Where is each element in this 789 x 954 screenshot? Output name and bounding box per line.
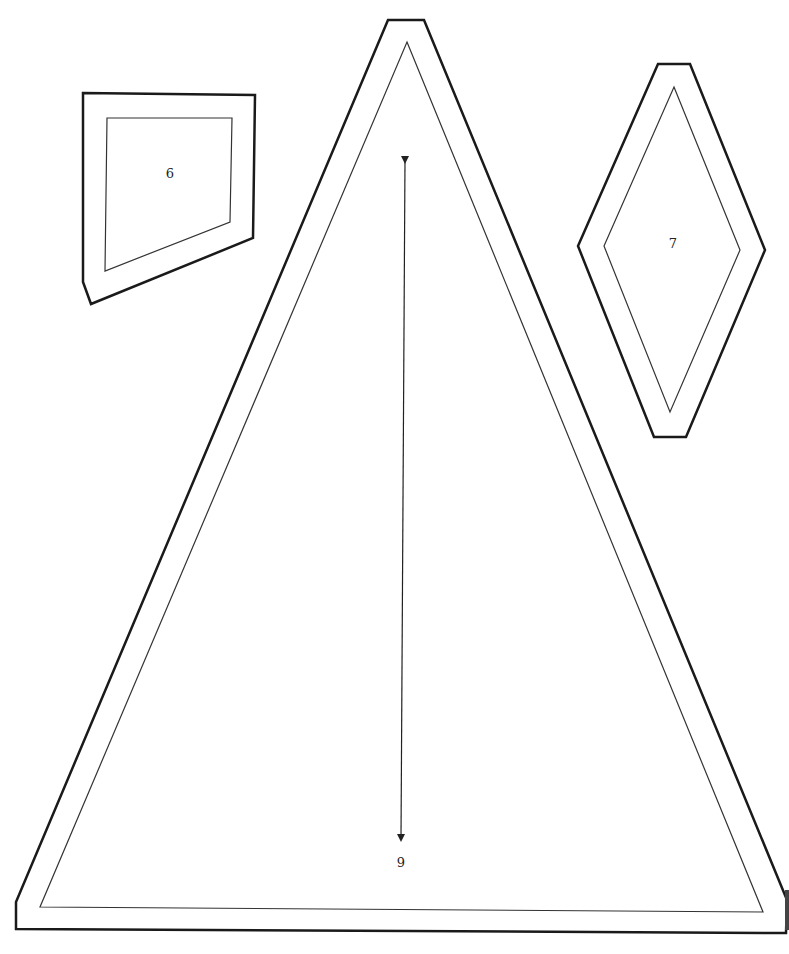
piece-7: 7: [578, 64, 765, 437]
piece-7-number: 7: [669, 236, 677, 251]
piece-6: 6: [83, 93, 255, 304]
piece-9-number: 9: [397, 855, 405, 870]
piece-6-seam-line: [105, 118, 232, 271]
piece-6-cut-line: [83, 93, 255, 304]
page-edge-shadow: [785, 890, 789, 930]
grainline-arrow: [401, 160, 405, 838]
quilt-pattern-template: 6 7 9: [0, 0, 789, 954]
piece-6-number: 6: [166, 166, 174, 181]
piece-9: 9: [16, 20, 787, 933]
